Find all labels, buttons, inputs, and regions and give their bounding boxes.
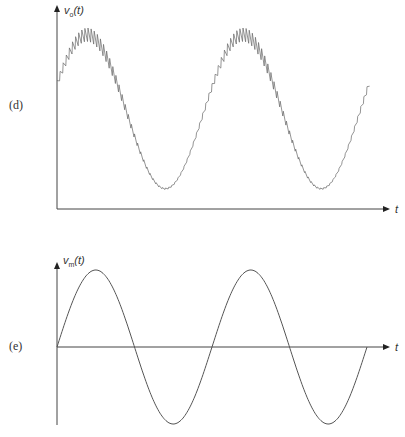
x-axis-arrow-icon xyxy=(383,344,390,350)
panel-d-waveform xyxy=(57,28,370,190)
panel-e-y-label: vm(t) xyxy=(63,254,85,268)
panel-d-y-label: vo(t) xyxy=(64,4,84,18)
panel-e-axes xyxy=(54,262,390,425)
panel-e-x-label: t xyxy=(395,341,399,353)
waveform-diagram: vo(t) t vm(t) t xyxy=(0,0,405,437)
y-axis-arrow-icon xyxy=(54,5,60,12)
panel-d-axes xyxy=(54,5,390,212)
x-axis-arrow-icon xyxy=(383,206,390,212)
y-axis-arrow-icon xyxy=(54,262,60,269)
panel-d-x-label: t xyxy=(395,203,399,215)
